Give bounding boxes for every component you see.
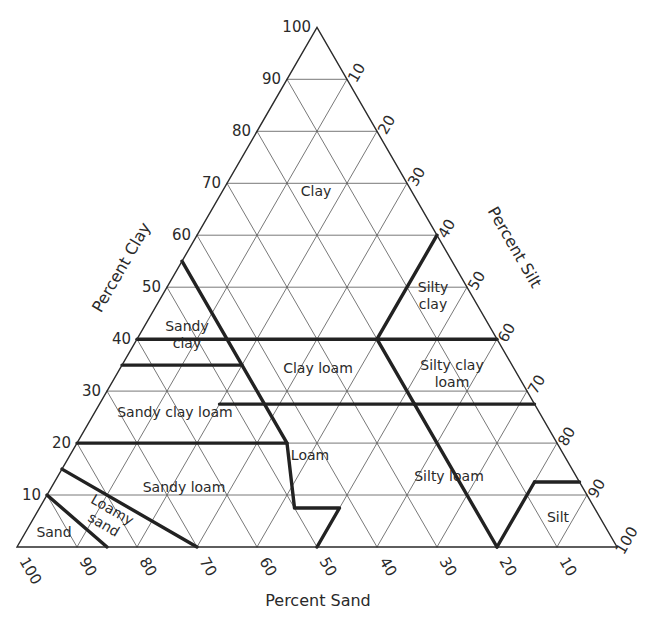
sand-tick-label: 40	[376, 554, 401, 580]
sand-tick-label: 50	[316, 554, 341, 580]
sand-tick-label: 100	[16, 554, 46, 588]
sand-tick-label: 20	[496, 554, 521, 580]
sand-tick-label: 10	[556, 554, 581, 580]
silt-axis-ticks: 102030405060708090100	[344, 60, 642, 557]
region-label-loamy-sand: Loamysand	[80, 491, 137, 543]
region-label-loam: Loam	[291, 447, 329, 463]
clay-axis-ticks: 102030405060708090100	[22, 18, 311, 504]
clay-tick-label: 100	[282, 18, 311, 36]
region-label-sand: Sand	[36, 524, 71, 540]
clay-tick-label: 10	[22, 486, 41, 504]
sand-axis-ticks: 100908070605040302010	[16, 554, 581, 588]
region-label-sandy-clay-loam: Sandy clay loam	[117, 404, 233, 420]
region-label-clay: Clay	[301, 183, 332, 199]
clay-tick-label: 40	[112, 330, 131, 348]
sand-tick-label: 70	[196, 554, 221, 580]
region-labels: Clay Siltyclay Sandyclay Clay loam Silty…	[36, 183, 569, 543]
sand-tick-label: 60	[256, 554, 281, 580]
soil-texture-triangle: 102030405060708090100 102030405060708090…	[0, 0, 655, 627]
clay-tick-label: 90	[262, 70, 281, 88]
region-label-silty-clay-loam: Silty clayloam	[420, 357, 483, 390]
sand-tick-label: 80	[136, 554, 161, 580]
silt-tick-label: 100	[612, 524, 642, 558]
region-label-silty-loam: Silty loam	[414, 468, 484, 484]
clay-tick-label: 60	[172, 226, 191, 244]
clay-tick-label: 70	[202, 174, 221, 192]
region-label-silt: Silt	[547, 509, 570, 525]
clay-tick-label: 50	[142, 278, 161, 296]
clay-tick-label: 80	[232, 122, 251, 140]
sand-axis-title: Percent Sand	[265, 591, 371, 610]
region-label-sandy-clay: Sandyclay	[165, 318, 209, 351]
grid-lines	[47, 79, 587, 547]
clay-tick-label: 20	[52, 434, 71, 452]
clay-axis-title: Percent Clay	[88, 219, 155, 315]
region-label-clay-loam: Clay loam	[283, 360, 353, 376]
region-label-silty-clay: Siltyclay	[418, 279, 448, 312]
region-label-sandy-loam: Sandy loam	[143, 479, 226, 495]
sand-tick-label: 30	[436, 554, 461, 580]
sand-tick-label: 90	[76, 554, 101, 580]
silt-axis-title: Percent Silt	[484, 203, 546, 291]
clay-tick-label: 30	[82, 382, 101, 400]
